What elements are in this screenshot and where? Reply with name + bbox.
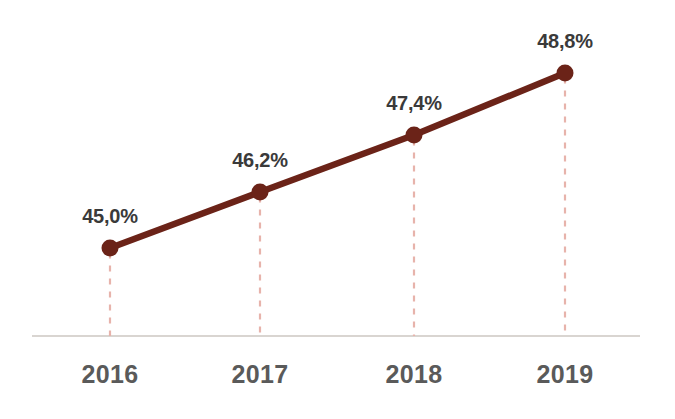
- value-label-2016: 45,0%: [82, 206, 138, 226]
- category-label-2019: 2019: [537, 362, 594, 387]
- category-label-2018: 2018: [386, 362, 443, 387]
- data-point-2017[interactable]: [252, 184, 269, 201]
- series-line: [110, 73, 565, 248]
- value-label-2017: 46,2%: [232, 150, 288, 170]
- value-label-2019: 48,8%: [537, 31, 593, 51]
- value-label-2018: 47,4%: [386, 93, 442, 113]
- data-point-2018[interactable]: [406, 127, 423, 144]
- line-chart: 45,0% 46,2% 47,4% 48,8% 2016 2017 2018 2…: [0, 0, 675, 419]
- category-label-2016: 2016: [82, 362, 139, 387]
- category-label-2017: 2017: [232, 362, 289, 387]
- droplines-group: [110, 78, 565, 337]
- data-point-2016[interactable]: [102, 240, 119, 257]
- data-point-2019[interactable]: [557, 65, 574, 82]
